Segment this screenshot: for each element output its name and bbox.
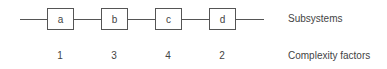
- subsystems-row-label: Subsystems: [288, 13, 342, 24]
- subsystem-box-c: c: [155, 8, 182, 30]
- complexity-row-label: Complexity factors: [288, 50, 370, 61]
- connector-line: [74, 19, 102, 20]
- connector-line: [128, 19, 156, 20]
- complexity-factor-d: 2: [212, 50, 232, 61]
- connector-line: [236, 19, 264, 20]
- subsystem-label: c: [166, 14, 171, 25]
- subsystem-box-a: a: [47, 8, 74, 30]
- subsystem-box-b: b: [101, 8, 128, 30]
- subsystem-label: d: [220, 14, 226, 25]
- complexity-factor-c: 4: [158, 50, 178, 61]
- subsystem-label: b: [112, 14, 118, 25]
- connector-line: [20, 19, 48, 20]
- complexity-factor-a: 1: [50, 50, 70, 61]
- subsystem-label: a: [58, 14, 64, 25]
- complexity-factor-b: 3: [104, 50, 124, 61]
- subsystem-box-d: d: [209, 8, 236, 30]
- connector-line: [182, 19, 210, 20]
